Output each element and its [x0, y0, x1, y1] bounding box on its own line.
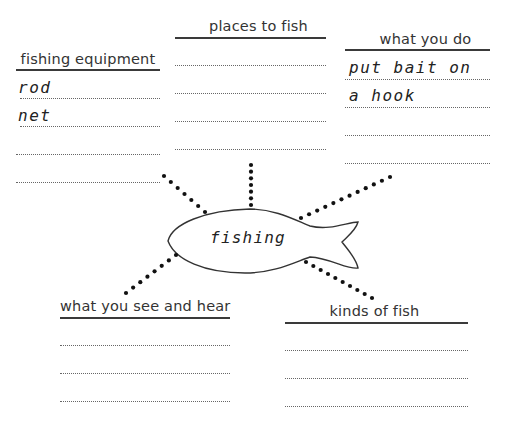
connector-dot	[307, 212, 311, 216]
connector-dot	[249, 203, 253, 207]
ray-to-see-and-hear	[124, 253, 178, 295]
answer-line[interactable]	[345, 135, 490, 136]
box-title: what you see and hear	[60, 298, 230, 314]
connector-dot	[341, 280, 345, 284]
connector-dot	[355, 288, 359, 292]
box-kinds-of-fish: kinds of fish	[285, 301, 468, 411]
title-underline	[175, 37, 326, 39]
answer-line[interactable]	[345, 163, 490, 164]
answer-line[interactable]	[175, 93, 326, 94]
connector-dot	[189, 198, 193, 202]
answer-text: net	[18, 106, 51, 125]
connector-dot	[363, 292, 367, 296]
connector-dot	[124, 291, 128, 295]
connector-dot	[152, 269, 156, 273]
connector-dot	[182, 192, 186, 196]
connector-dot	[249, 176, 253, 180]
connector-dot	[339, 197, 343, 201]
answer-line[interactable]	[60, 373, 230, 374]
box-title: what you do	[361, 31, 490, 47]
connector-dot	[326, 272, 330, 276]
connector-dot	[249, 163, 253, 167]
answer-text: rod	[18, 78, 51, 97]
answer-line[interactable]	[16, 154, 160, 155]
answer-line[interactable]	[285, 406, 468, 407]
title-underline	[60, 317, 230, 319]
connector-dot	[372, 182, 376, 186]
ray-to-what-you-do	[299, 175, 392, 220]
box-what-you-do: what you do put bait on a hook	[345, 28, 490, 168]
answer-line[interactable]	[175, 65, 326, 66]
answer-text: put bait on	[349, 58, 471, 77]
box-places-to-fish: places to fish	[175, 16, 326, 156]
ray-to-places-to-fish	[249, 163, 253, 207]
box-what-you-see-and-hear: what you see and hear	[60, 296, 230, 406]
title-underline	[345, 49, 490, 51]
answer-line[interactable]	[285, 378, 468, 379]
connector-dot	[323, 205, 327, 209]
connector-dot	[203, 210, 207, 214]
connector-dot	[380, 179, 384, 183]
connector-dot	[249, 190, 253, 194]
connector-dot	[145, 275, 149, 279]
connector-dot	[348, 284, 352, 288]
connector-dot	[162, 174, 166, 178]
answer-line[interactable]	[60, 401, 230, 402]
title-underline	[16, 69, 160, 71]
connector-dot	[249, 196, 253, 200]
connector-dot	[304, 260, 308, 264]
box-title: places to fish	[191, 18, 326, 34]
connector-dot	[388, 175, 392, 179]
connector-dot	[169, 180, 173, 184]
answer-line[interactable]	[16, 182, 160, 183]
connector-dot	[331, 201, 335, 205]
connector-dot	[333, 276, 337, 280]
answer-line[interactable]	[20, 98, 160, 99]
connector-dot	[311, 264, 315, 268]
answer-line[interactable]	[175, 121, 326, 122]
connector-dot	[131, 285, 135, 289]
box-title: fishing equipment	[16, 51, 160, 67]
connector-dot	[249, 170, 253, 174]
answer-line[interactable]	[60, 345, 230, 346]
title-underline	[285, 322, 468, 324]
connector-dot	[138, 280, 142, 284]
box-fishing-equipment: fishing equipment rod net	[16, 48, 160, 188]
answer-text: a hook	[349, 86, 416, 105]
connector-dot	[347, 194, 351, 198]
box-title: kinds of fish	[281, 303, 468, 319]
connector-dot	[356, 190, 360, 194]
connector-dot	[370, 296, 374, 300]
connector-dot	[176, 186, 180, 190]
connector-dot	[299, 216, 303, 220]
connector-dot	[364, 186, 368, 190]
connector-dot	[174, 253, 178, 257]
connector-dot	[249, 183, 253, 187]
answer-line[interactable]	[345, 107, 490, 108]
ray-to-fishing-equipment	[162, 174, 207, 214]
connector-dot	[315, 208, 319, 212]
ray-to-kinds-of-fish	[304, 260, 374, 300]
connector-dot	[160, 264, 164, 268]
answer-line[interactable]	[345, 79, 490, 80]
answer-line[interactable]	[285, 350, 468, 351]
connector-dot	[167, 258, 171, 262]
connector-dot	[196, 204, 200, 208]
answer-line[interactable]	[20, 126, 160, 127]
connector-dot	[319, 268, 323, 272]
center-topic-label: fishing	[210, 228, 286, 247]
answer-line[interactable]	[175, 149, 326, 150]
